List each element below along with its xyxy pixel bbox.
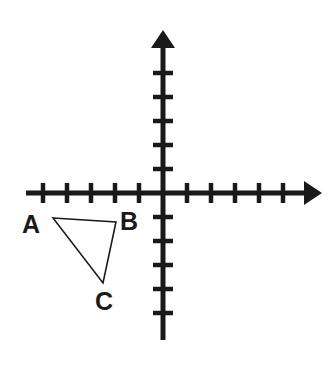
vertex-label-b: B (120, 209, 138, 234)
y-axis-group (151, 30, 175, 340)
coordinate-plane-figure: A B C (0, 0, 334, 368)
y-axis-arrowhead-icon (151, 30, 175, 48)
vertex-label-c: C (95, 289, 113, 314)
vertex-label-a: A (22, 212, 40, 237)
coordinate-plane-svg (0, 0, 334, 368)
x-axis-arrowhead-icon (304, 181, 322, 205)
x-axis-group (26, 181, 322, 205)
triangle-abc-shape (53, 218, 116, 283)
